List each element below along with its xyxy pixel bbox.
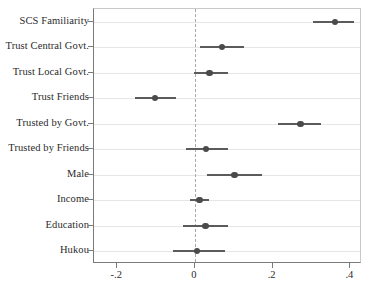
x-axis-label: -.2 bbox=[96, 269, 136, 280]
estimate-point bbox=[152, 95, 158, 101]
x-axis-tick bbox=[349, 263, 350, 268]
y-axis-label: Trust Friends bbox=[0, 92, 89, 103]
estimate-point bbox=[332, 19, 338, 25]
x-axis-tick bbox=[116, 263, 117, 268]
gridline bbox=[94, 200, 360, 201]
x-axis-tick bbox=[272, 263, 273, 268]
y-axis-label: Education bbox=[0, 220, 89, 231]
estimate-point bbox=[196, 197, 202, 203]
plot-area bbox=[93, 8, 361, 263]
estimate-point bbox=[219, 44, 225, 50]
gridline bbox=[94, 251, 360, 252]
y-axis-label: Income bbox=[0, 194, 89, 205]
estimate-point bbox=[203, 146, 209, 152]
y-axis-label: Male bbox=[0, 169, 89, 180]
y-axis-label: Trusted by Govt. bbox=[0, 118, 89, 129]
estimate-point bbox=[297, 121, 303, 127]
y-axis-label: Trust Central Govt. bbox=[0, 41, 89, 52]
y-axis-label: Trusted by Friends bbox=[0, 143, 89, 154]
plot-inner bbox=[94, 9, 360, 262]
estimate-point bbox=[206, 70, 212, 76]
coefficient-plot-figure: SCS FamiliarityTrust Central Govt.Trust … bbox=[0, 0, 369, 288]
x-axis-label: .4 bbox=[329, 269, 369, 280]
estimate-point bbox=[202, 223, 208, 229]
x-axis-tick bbox=[194, 263, 195, 268]
estimate-point bbox=[231, 172, 237, 178]
x-axis-label: 0 bbox=[174, 269, 214, 280]
estimate-point bbox=[194, 248, 200, 254]
x-axis-label: .2 bbox=[252, 269, 292, 280]
y-axis-label: SCS Familiarity bbox=[0, 16, 89, 27]
y-axis-label: Trust Local Govt. bbox=[0, 67, 89, 78]
y-axis-label: Hukou bbox=[0, 245, 89, 256]
